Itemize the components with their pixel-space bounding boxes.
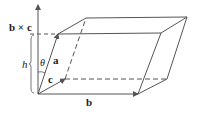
- label-h: h: [22, 58, 28, 70]
- edge-back-right: [167, 17, 187, 79]
- hidden-edge-back-left: [65, 18, 86, 79]
- label-c: c: [48, 73, 53, 85]
- edge-top-front: [58, 33, 161, 34]
- height-brace: [29, 35, 34, 93]
- edge-top-back: [86, 17, 187, 18]
- edge-front-right: [138, 33, 161, 94]
- label-a: a: [53, 54, 59, 66]
- label-theta: θ: [40, 57, 45, 68]
- parallelepiped-diagram: b × c h θ a c b: [0, 0, 197, 114]
- label-b-cross-c: b × c: [9, 21, 32, 33]
- angle-theta-arc: [38, 72, 45, 73]
- label-b: b: [86, 96, 92, 108]
